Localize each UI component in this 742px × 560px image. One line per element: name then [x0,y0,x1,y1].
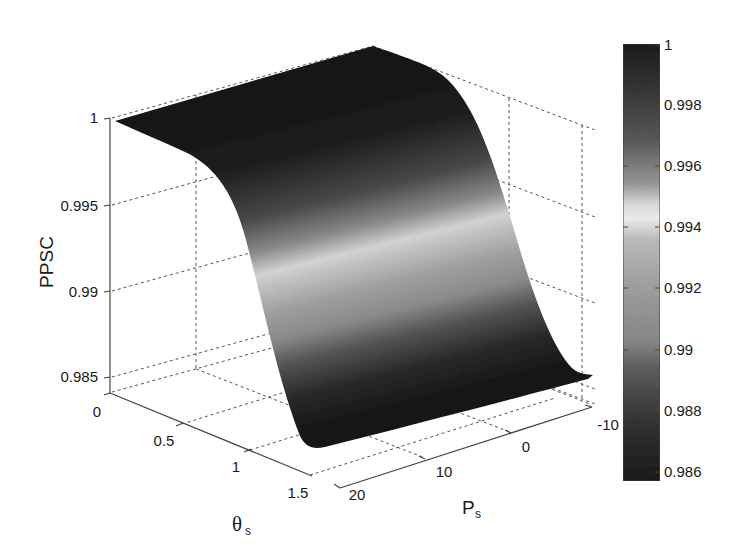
colorbar-tick: 0.988 [664,402,702,419]
colorbar-tick: 1 [664,36,672,53]
theta-axis-label: θ s [232,512,251,538]
colorbar: 1 0.998 0.996 0.994 0.992 0.99 0.988 0.9… [623,36,702,481]
p-tick: 20 [349,486,366,503]
theta-tick: 1 [232,458,240,475]
colorbar-tick: 0.986 [664,463,702,480]
theta-tick: 0 [93,403,101,420]
theta-tick: 1.5 [288,484,309,501]
theta-tick: 0.5 [154,432,175,449]
surface-plot: 1 0.995 0.99 0.985 0 0.5 1 1.5 20 10 0 -… [0,0,742,560]
z-tick: 0.995 [60,197,98,214]
p-tick: 0 [522,438,530,455]
colorbar-gradient [623,44,660,481]
colorbar-tick: 0.992 [664,279,702,296]
z-axis-label: PPSC [36,236,57,288]
theta-symbol: θ [232,512,242,536]
z-tick-labels: 1 0.995 0.99 0.985 [60,109,98,385]
p-subscript: s [475,507,481,521]
z-tick: 1 [90,109,98,126]
colorbar-tick: 0.998 [664,96,702,113]
p-axis-label: P s [462,497,481,521]
theta-subscript: s [245,524,251,538]
p-symbol: P [462,497,475,518]
z-tick: 0.99 [69,283,98,300]
colorbar-tick: 0.996 [664,157,702,174]
p-tick: 10 [436,463,453,480]
colorbar-tick: 0.994 [664,218,702,235]
p-tick: -10 [597,416,619,433]
ppsc-surface [115,46,593,448]
colorbar-tick: 0.99 [664,341,693,358]
z-tick: 0.985 [60,368,98,385]
